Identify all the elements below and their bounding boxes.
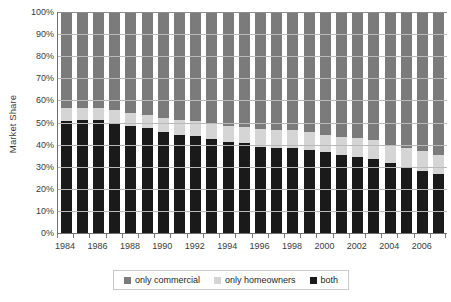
legend-item[interactable]: only homeowners: [214, 275, 296, 285]
x-tick-mark: [349, 234, 350, 238]
bar-column[interactable]: [123, 12, 139, 233]
legend-label: only commercial: [135, 275, 200, 285]
bar-column[interactable]: [252, 12, 268, 233]
bar-segment-only-commercial: [223, 12, 234, 126]
bar-segment-only-commercial: [417, 12, 428, 151]
bar-segment-only-homeowners: [255, 129, 266, 147]
bar-column[interactable]: [285, 12, 301, 233]
bar-column[interactable]: [431, 12, 447, 233]
bar-column[interactable]: [366, 12, 382, 233]
bar-segment-only-homeowners: [304, 132, 315, 150]
y-tick-label: 40%: [18, 140, 54, 150]
legend-swatch-icon: [214, 277, 221, 284]
bar-segment-only-homeowners: [93, 108, 104, 120]
bar-stack: [433, 12, 444, 233]
x-tick-mark: [122, 234, 123, 238]
bar-segment-both: [77, 120, 88, 233]
bar-stack: [239, 12, 250, 233]
bar-column[interactable]: [269, 12, 285, 233]
bar-column[interactable]: [107, 12, 123, 233]
bar-segment-both: [61, 121, 72, 233]
bar-segment-only-commercial: [93, 12, 104, 108]
bar-segment-both: [417, 171, 428, 233]
bar-segment-only-homeowners: [158, 118, 169, 132]
bar-segment-both: [336, 155, 347, 233]
bar-column[interactable]: [155, 12, 171, 233]
x-tick-mark: [365, 234, 366, 238]
bar-column[interactable]: [350, 12, 366, 233]
bar-column[interactable]: [414, 12, 430, 233]
x-tick-mark: [203, 234, 204, 238]
legend-label: only homeowners: [225, 275, 296, 285]
stacked-bar-chart: Market Share 0%10%20%30%40%50%60%70%80%9…: [0, 0, 451, 302]
bar-segment-only-homeowners: [223, 126, 234, 143]
bar-segment-both: [158, 132, 169, 233]
y-tick-label: 100%: [18, 7, 54, 17]
x-tick-mark: [187, 234, 188, 238]
bar-column[interactable]: [382, 12, 398, 233]
bar-segment-both: [401, 168, 412, 233]
bar-segment-both: [304, 150, 315, 233]
bar-segment-only-homeowners: [190, 121, 201, 135]
bar-series-group: [58, 12, 447, 233]
bar-segment-only-homeowners: [174, 120, 185, 134]
legend-item[interactable]: only commercial: [124, 275, 200, 285]
bar-segment-only-homeowners: [61, 108, 72, 121]
x-tick-mark: [106, 234, 107, 238]
bar-segment-both: [385, 163, 396, 233]
bar-column[interactable]: [90, 12, 106, 233]
bar-column[interactable]: [58, 12, 74, 233]
x-tick-mark: [316, 234, 317, 238]
x-tick-mark: [445, 234, 446, 238]
bar-segment-only-homeowners: [417, 151, 428, 171]
bar-stack: [255, 12, 266, 233]
bar-stack: [385, 12, 396, 233]
bar-column[interactable]: [74, 12, 90, 233]
bar-column[interactable]: [171, 12, 187, 233]
x-tick-mark: [219, 234, 220, 238]
bar-stack: [417, 12, 428, 233]
bar-column[interactable]: [220, 12, 236, 233]
bar-column[interactable]: [204, 12, 220, 233]
x-tick-mark: [154, 234, 155, 238]
bar-segment-both: [368, 159, 379, 233]
bar-segment-only-homeowners: [336, 137, 347, 155]
bar-column[interactable]: [398, 12, 414, 233]
bar-stack: [401, 12, 412, 233]
x-axis-tick-labels: 1984198619881990199219941996199820002002…: [57, 239, 446, 255]
bar-segment-only-commercial: [61, 12, 72, 108]
bar-segment-only-commercial: [352, 12, 363, 138]
x-tick-mark: [333, 234, 334, 238]
bar-column[interactable]: [333, 12, 349, 233]
bar-segment-only-homeowners: [109, 110, 120, 123]
bar-segment-only-commercial: [287, 12, 298, 130]
bar-column[interactable]: [301, 12, 317, 233]
bar-segment-both: [206, 139, 217, 233]
bar-stack: [109, 12, 120, 233]
bar-column[interactable]: [139, 12, 155, 233]
bar-stack: [142, 12, 153, 233]
bar-segment-only-commercial: [385, 12, 396, 145]
y-axis-tick-labels: 0%10%20%30%40%50%60%70%80%90%100%: [18, 7, 54, 233]
x-tick-mark: [57, 234, 58, 238]
bar-segment-both: [125, 126, 136, 233]
legend-item[interactable]: both: [310, 275, 339, 285]
y-tick-label: 90%: [18, 29, 54, 39]
bar-segment-only-homeowners: [239, 127, 250, 144]
bar-segment-only-commercial: [304, 12, 315, 132]
bar-segment-only-commercial: [190, 12, 201, 121]
bar-segment-only-homeowners: [401, 148, 412, 168]
bar-column[interactable]: [236, 12, 252, 233]
bar-segment-both: [352, 157, 363, 233]
bar-segment-both: [174, 135, 185, 233]
y-tick-label: 60%: [18, 95, 54, 105]
bar-stack: [336, 12, 347, 233]
bar-segment-only-commercial: [109, 12, 120, 110]
bar-column[interactable]: [317, 12, 333, 233]
x-tick-mark: [268, 234, 269, 238]
bar-segment-only-homeowners: [320, 135, 331, 153]
bar-segment-both: [320, 152, 331, 233]
bar-column[interactable]: [188, 12, 204, 233]
bar-segment-only-homeowners: [142, 115, 153, 128]
bar-segment-only-commercial: [206, 12, 217, 124]
